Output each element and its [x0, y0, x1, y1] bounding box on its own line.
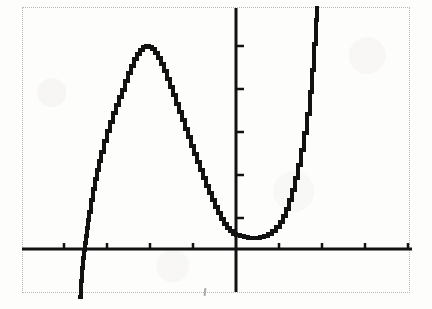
graph-canvas [0, 0, 432, 309]
calculator-screenshot [0, 0, 432, 309]
plotted-curve [80, 8, 317, 297]
